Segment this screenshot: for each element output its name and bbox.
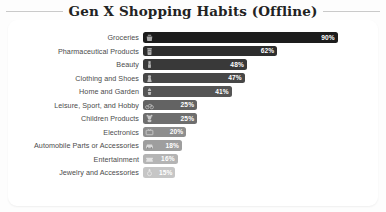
bar-track: 47% xyxy=(143,72,378,86)
category-label: Leisure, Sport, and Hobby xyxy=(8,101,143,110)
category-label: Home and Garden xyxy=(8,87,143,96)
bar-value-label: 18% xyxy=(165,142,179,150)
category-label: Beauty xyxy=(8,60,143,69)
bar-value-label: 48% xyxy=(230,61,244,69)
bar[interactable]: 41% xyxy=(143,86,232,97)
chart-row: Jewelry and Accessories15% xyxy=(8,166,378,180)
category-label: Clothing and Shoes xyxy=(8,74,143,83)
chart-row: Home and Garden41% xyxy=(8,85,378,99)
bar-track: 20% xyxy=(143,126,378,140)
bar-chart-plot: Groceries90%Pharmaceutical Products62%Be… xyxy=(8,31,378,180)
bar-track: 15% xyxy=(143,166,378,180)
bar-track: 18% xyxy=(143,139,378,153)
bicycle-icon xyxy=(145,101,154,110)
chart-row: Leisure, Sport, and Hobby25% xyxy=(8,99,378,113)
category-label: Pharmaceutical Products xyxy=(8,47,143,56)
chart-row: Entertainment16% xyxy=(8,153,378,167)
chart-title-row: Gen X Shopping Habits (Offline) xyxy=(0,3,386,19)
ticket-icon xyxy=(145,155,154,164)
bar-value-label: 20% xyxy=(170,128,184,136)
category-label: Electronics xyxy=(8,128,143,137)
chart-row: Clothing and Shoes47% xyxy=(8,72,378,86)
bar-value-label: 62% xyxy=(261,47,275,55)
bar-value-label: 47% xyxy=(228,74,242,82)
category-label: Groceries xyxy=(8,33,143,42)
bar[interactable]: 15% xyxy=(143,167,175,178)
chart-row: Groceries90% xyxy=(8,31,378,45)
lipstick-icon xyxy=(145,60,154,69)
bar-track: 90% xyxy=(143,31,378,45)
house-plant-icon xyxy=(145,87,154,96)
chart-row: Pharmaceutical Products62% xyxy=(8,45,378,59)
bar[interactable]: 20% xyxy=(143,127,186,138)
bar-track: 25% xyxy=(143,99,378,113)
bar[interactable]: 62% xyxy=(143,46,277,57)
bar-track: 48% xyxy=(143,58,378,72)
bar[interactable]: 25% xyxy=(143,100,197,111)
page-title: Gen X Shopping Habits (Offline) xyxy=(69,3,318,19)
car-icon xyxy=(145,141,154,150)
dress-icon xyxy=(145,74,154,83)
tv-icon xyxy=(145,128,154,137)
bar-track: 16% xyxy=(143,153,378,167)
bar-value-label: 90% xyxy=(321,34,335,42)
teddy-bear-icon xyxy=(145,114,154,123)
bar[interactable]: 16% xyxy=(143,154,178,165)
ring-icon xyxy=(145,168,154,177)
chart-row: Beauty48% xyxy=(8,58,378,72)
category-label: Children Products xyxy=(8,114,143,123)
category-label: Entertainment xyxy=(8,155,143,164)
bar[interactable]: 90% xyxy=(143,32,338,43)
chart-row: Electronics20% xyxy=(8,126,378,140)
pill-bottle-icon xyxy=(145,47,154,56)
bar-track: 62% xyxy=(143,45,378,59)
bar[interactable]: 18% xyxy=(143,140,182,151)
bar-value-label: 25% xyxy=(181,115,195,123)
bar-value-label: 15% xyxy=(159,169,173,177)
chart-page: Gen X Shopping Habits (Offline) Grocerie… xyxy=(0,0,386,212)
bar[interactable]: 25% xyxy=(143,113,197,124)
category-label: Jewelry and Accessories xyxy=(8,168,143,177)
bar-value-label: 16% xyxy=(161,155,175,163)
bar[interactable]: 47% xyxy=(143,73,245,84)
chart-card: Groceries90%Pharmaceutical Products62%Be… xyxy=(8,20,378,206)
bar-track: 41% xyxy=(143,85,378,99)
chart-row: Automobile Parts or Accessories18% xyxy=(8,139,378,153)
bar-track: 25% xyxy=(143,112,378,126)
bar-value-label: 41% xyxy=(215,88,229,96)
title-rule-right xyxy=(323,11,380,12)
title-rule-left xyxy=(6,11,63,12)
bar[interactable]: 48% xyxy=(143,59,247,70)
bar-value-label: 25% xyxy=(181,101,195,109)
chart-row: Children Products25% xyxy=(8,112,378,126)
shopping-basket-icon xyxy=(145,33,154,42)
category-label: Automobile Parts or Accessories xyxy=(8,141,143,150)
